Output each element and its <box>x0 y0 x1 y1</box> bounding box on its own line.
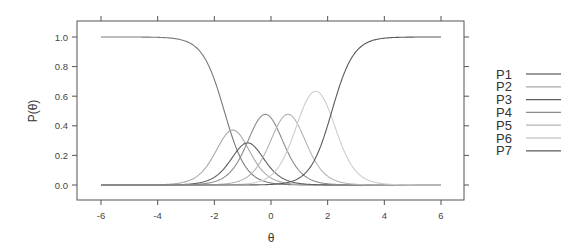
legend-label: P7 <box>496 143 512 158</box>
curve-p5 <box>101 114 441 185</box>
y-tick-label: 0.0 <box>55 180 68 191</box>
y-axis: 0.00.20.40.60.81.0 <box>55 32 469 191</box>
x-tick-label: -2 <box>210 210 218 221</box>
y-tick-label: 0.4 <box>55 120 68 131</box>
curve-p3 <box>101 143 441 185</box>
y-tick-label: 1.0 <box>55 32 68 43</box>
x-tick-label: -4 <box>153 210 161 221</box>
x-axis-title: θ <box>268 231 275 245</box>
x-axis: -6-4-20246 <box>97 16 444 221</box>
curve-p4 <box>101 114 441 185</box>
y-tick-label: 0.6 <box>55 91 68 102</box>
curve-p7 <box>101 37 441 185</box>
curves-layer <box>101 37 441 185</box>
legend: P1P2P3P4P5P6P7 <box>496 67 561 159</box>
legend-item-p7: P7 <box>496 143 561 158</box>
x-tick-label: -6 <box>97 210 105 221</box>
curve-p1 <box>101 37 441 185</box>
y-tick-label: 0.2 <box>55 150 68 161</box>
x-tick-label: 0 <box>268 210 273 221</box>
y-tick-label: 0.8 <box>55 61 68 72</box>
curve-p6 <box>101 91 441 185</box>
x-tick-label: 4 <box>382 210 387 221</box>
plot-area <box>77 21 464 200</box>
curve-p2 <box>101 130 441 185</box>
plot-frame <box>77 21 464 200</box>
x-tick-label: 2 <box>325 210 330 221</box>
x-tick-label: 6 <box>438 210 443 221</box>
y-axis-title: P(θ) <box>26 100 40 123</box>
item-category-curves-chart: -6-4-20246 0.00.20.40.60.81.0 θ P(θ) P1P… <box>0 0 584 251</box>
